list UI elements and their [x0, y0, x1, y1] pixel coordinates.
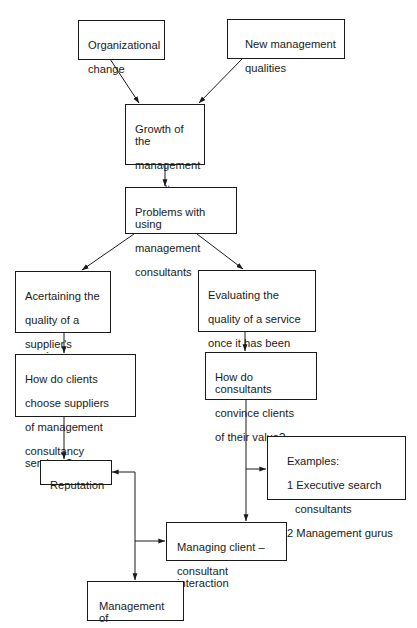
node-text: Organizational [88, 39, 156, 51]
arrow-newmgmt-to-growth [199, 58, 243, 103]
node-text: choose suppliers [25, 397, 127, 409]
node-text: Examples: [287, 455, 397, 467]
node-text: quality of a service [208, 313, 307, 325]
node-text: Acertaining the [25, 290, 102, 302]
node-text: management [135, 159, 196, 171]
node-managing-interaction: Managing client – consultant interaction [166, 522, 287, 561]
node-acertaining-quality: Acertaining the quality of a supplier's … [15, 271, 111, 333]
arrow-problems-to-acertaining [82, 234, 134, 270]
node-text: New management [245, 38, 336, 50]
node-text: Evaluating the [208, 289, 307, 301]
node-text: of management [25, 421, 127, 433]
node-how-consultants-convince: How do consultants convince clients of t… [205, 352, 317, 400]
node-text: Reputation [50, 479, 103, 491]
node-reputation: Reputation [40, 460, 112, 485]
node-evaluating-quality: Evaluating the quality of a service once… [198, 270, 316, 332]
node-text: 1 Executive search [287, 479, 397, 491]
node-text: 2 Management gurus [287, 527, 397, 539]
node-management-of-impressions: Management of impressions [87, 581, 184, 621]
node-text: convince clients [215, 407, 308, 419]
node-problems-using-consultants: Problems with using management consultan… [125, 187, 237, 234]
node-text: How do consultants [215, 371, 308, 395]
node-growth-industry: Growth of the management consultancy ind… [125, 104, 205, 165]
node-text: consultant interaction [177, 565, 278, 589]
node-text: How do clients [25, 373, 127, 385]
node-text: change [88, 63, 156, 75]
node-how-clients-choose: How do clients choose suppliers of manag… [15, 354, 136, 417]
node-organizational-change: Organizational change [78, 20, 165, 60]
node-text: management [135, 242, 228, 254]
node-text: quality of a [25, 314, 102, 326]
node-text: Managing client – [177, 541, 278, 553]
node-text: once it has been [208, 337, 307, 349]
node-text: Management of [99, 600, 175, 624]
node-text: qualities [245, 62, 336, 74]
node-text: Growth of the [135, 123, 196, 147]
node-new-management-qualities: New management qualities [227, 19, 345, 59]
node-text: consultants [287, 503, 397, 515]
node-examples: Examples: 1 Executive search consultants… [267, 436, 406, 500]
flowchart-canvas: Organizational change New management qua… [0, 0, 417, 628]
node-text: Problems with using [135, 206, 228, 230]
